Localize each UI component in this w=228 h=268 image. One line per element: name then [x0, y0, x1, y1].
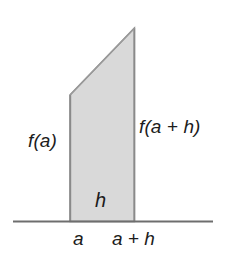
figure-canvas: f(a) f(a + h) h a a + h: [0, 0, 228, 268]
label-right-height-f-of-a-plus-h: f(a + h): [139, 117, 201, 136]
label-axis-tick-a: a: [73, 229, 84, 248]
label-axis-tick-a-plus-h: a + h: [112, 229, 155, 248]
label-width-h: h: [95, 190, 106, 210]
label-left-height-f-of-a: f(a): [28, 131, 57, 150]
